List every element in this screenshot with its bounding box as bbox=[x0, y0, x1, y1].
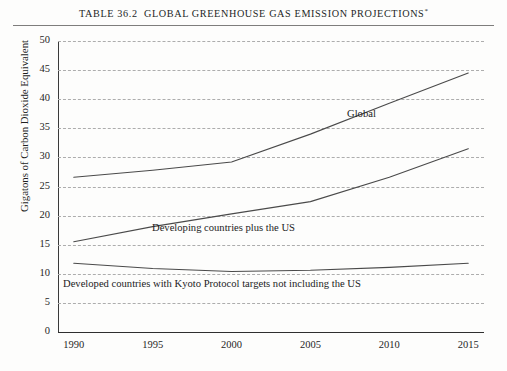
series-line-global bbox=[74, 73, 468, 177]
title-divider bbox=[13, 25, 494, 26]
page-title: TABLE 36.2 GLOBAL GREENHOUSE GAS EMISSIO… bbox=[0, 0, 507, 19]
y-axis-title: Gigatons of Carbon Dioxide Equivalent bbox=[18, 0, 30, 276]
x-tick-label-1995: 1995 bbox=[123, 339, 183, 350]
title-footnote-marker: * bbox=[424, 7, 428, 15]
series-line-developed-kyoto bbox=[74, 263, 468, 271]
series-lines-group bbox=[58, 41, 484, 333]
x-tick-label-2000: 2000 bbox=[202, 339, 262, 350]
y-tick-label-0: 0 bbox=[6, 325, 50, 336]
series-label-global: Global bbox=[347, 108, 376, 119]
x-tick-label-2010: 2010 bbox=[359, 339, 419, 350]
x-tick-label-2015: 2015 bbox=[438, 339, 498, 350]
title-prefix: TABLE 36.2 bbox=[79, 8, 138, 19]
y-tick-label-5: 5 bbox=[6, 296, 50, 307]
title-text: GLOBAL GREENHOUSE GAS EMISSION PROJECTIO… bbox=[144, 8, 424, 19]
chart-title-block: TABLE 36.2 GLOBAL GREENHOUSE GAS EMISSIO… bbox=[0, 0, 507, 19]
x-tick-label-2005: 2005 bbox=[280, 339, 340, 350]
series-label-developing-plus-us: Developing countries plus the US bbox=[152, 222, 295, 233]
x-tick-label-1990: 1990 bbox=[44, 339, 104, 350]
series-label-developed-kyoto: Developed countries with Kyoto Protocol … bbox=[63, 278, 361, 289]
figure-container: TABLE 36.2 GLOBAL GREENHOUSE GAS EMISSIO… bbox=[0, 0, 507, 371]
